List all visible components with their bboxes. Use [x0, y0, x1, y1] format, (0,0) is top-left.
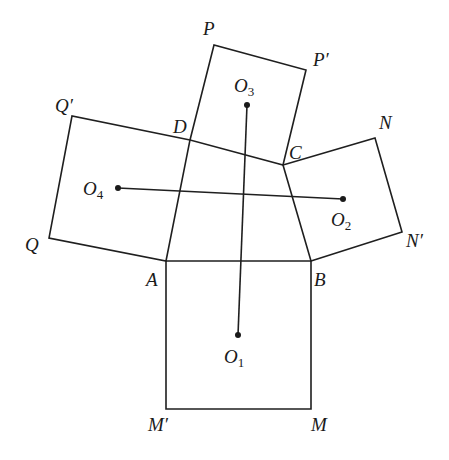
center-label-o3: O3 [234, 75, 254, 99]
vertex-label-b: B [314, 269, 326, 290]
vertex-label-q: Q [25, 234, 39, 255]
vertex-label-n-prime: N′ [405, 230, 424, 251]
center-point-O2 [340, 196, 346, 202]
segment-O1O3 [238, 105, 247, 335]
vertex-label-m-prime: M′ [147, 414, 169, 435]
vertex-label-p-prime: P′ [312, 49, 330, 70]
vertex-label-n: N [378, 112, 393, 133]
diagram-canvas: ABCDPP′QQ′NN′MM′ O1O2O3O4 [0, 0, 449, 460]
center-segments-layer [118, 105, 343, 335]
segment-O2O4 [118, 188, 343, 199]
center-label-o4: O4 [83, 178, 104, 202]
center-point-O3 [244, 102, 250, 108]
center-label-o1: O1 [224, 346, 244, 370]
vertex-label-d: D [172, 116, 187, 137]
vertex-label-q-prime: Q′ [55, 95, 74, 116]
vertex-label-a: A [144, 269, 158, 290]
vertex-labels-layer: ABCDPP′QQ′NN′MM′ [25, 18, 424, 435]
center-point-O4 [115, 185, 121, 191]
vertex-label-p: P [202, 18, 215, 39]
vertex-label-c: C [289, 142, 302, 163]
center-point-O1 [235, 332, 241, 338]
center-label-o2: O2 [331, 209, 351, 233]
geometry-figure: ABCDPP′QQ′NN′MM′ O1O2O3O4 [0, 0, 449, 460]
vertex-label-m: M [310, 414, 328, 435]
